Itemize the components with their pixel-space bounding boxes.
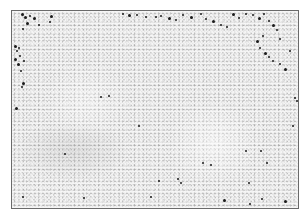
stained-cell <box>155 16 157 18</box>
stained-cell <box>22 82 25 85</box>
stained-cell <box>38 24 40 26</box>
stained-cell <box>289 50 291 52</box>
stained-cell <box>15 107 18 110</box>
stained-cell <box>22 28 24 30</box>
stained-cell <box>145 16 147 18</box>
stained-cell <box>26 22 29 25</box>
stained-cell <box>128 14 131 17</box>
stained-cell <box>276 29 278 31</box>
stained-cell <box>20 70 22 72</box>
stained-cell <box>296 100 298 102</box>
stained-cell <box>294 97 296 99</box>
stained-cell <box>49 21 51 23</box>
stained-cell <box>29 15 31 17</box>
stained-cell <box>200 13 202 15</box>
stained-cell <box>210 164 212 166</box>
stained-cell <box>260 150 262 152</box>
stained-cell <box>108 95 110 97</box>
stained-cell <box>259 47 261 49</box>
stained-cell <box>212 20 215 23</box>
stained-cell <box>160 15 162 17</box>
stained-cell <box>50 15 53 18</box>
micrograph-frame <box>11 10 299 209</box>
stained-cell <box>284 200 287 203</box>
pale-follicle-center <box>166 101 261 186</box>
stained-cell <box>24 16 27 19</box>
stained-cell <box>16 50 18 52</box>
stained-cell <box>223 199 226 202</box>
stained-cell <box>279 38 281 40</box>
stained-cell <box>264 52 267 55</box>
stained-cell <box>19 55 21 57</box>
stained-cell <box>122 13 124 15</box>
stained-cell <box>248 182 250 184</box>
stained-cell <box>138 125 140 127</box>
stained-cell <box>263 13 265 15</box>
stained-cell <box>268 56 270 58</box>
stained-cell <box>268 20 270 22</box>
stained-cell <box>14 45 17 48</box>
stained-cell <box>150 196 152 198</box>
stained-cell <box>232 13 235 16</box>
stained-cell <box>272 60 274 62</box>
stained-cell <box>168 17 171 20</box>
stained-cell <box>284 68 287 71</box>
stained-cell <box>258 17 261 20</box>
stained-cell <box>252 14 254 16</box>
stained-cell <box>292 125 294 127</box>
stained-cell <box>261 198 263 200</box>
stained-cell <box>238 17 240 19</box>
stained-cell <box>226 26 228 28</box>
stained-cell <box>190 16 193 19</box>
stained-cell <box>262 35 264 37</box>
stained-cell <box>245 13 247 15</box>
stained-cell <box>14 58 17 61</box>
stained-cell <box>22 196 24 198</box>
stained-cell <box>245 150 247 152</box>
stained-cell <box>256 40 259 43</box>
stained-cell <box>272 24 275 27</box>
stained-cell <box>17 63 20 66</box>
stained-cell <box>180 182 182 184</box>
stained-cell <box>83 197 85 199</box>
stained-cell <box>220 24 222 26</box>
stained-cell <box>100 96 102 98</box>
stained-cell <box>202 162 204 164</box>
stained-cell <box>175 19 177 21</box>
stained-cell <box>64 153 66 155</box>
stained-cell <box>266 162 268 164</box>
stained-cell <box>136 14 138 16</box>
stained-cell <box>33 17 36 20</box>
stained-cell <box>18 47 20 49</box>
stained-cell <box>249 203 251 205</box>
stained-cell <box>182 14 184 16</box>
stained-cell <box>158 180 160 182</box>
stained-cell <box>21 13 24 16</box>
stained-cell <box>21 86 23 88</box>
darker-band-lower-left <box>11 121 131 181</box>
stained-cell <box>205 18 207 20</box>
stained-cell <box>279 63 281 65</box>
stained-cell <box>177 178 179 180</box>
stained-cell <box>23 60 25 62</box>
